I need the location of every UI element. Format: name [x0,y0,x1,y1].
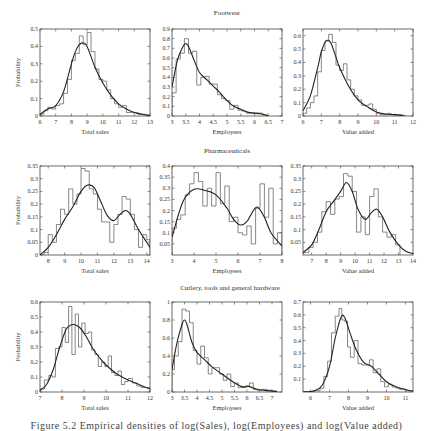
y-tick-label: 0.1 [31,227,39,233]
x-tick-label: 10 [103,395,109,401]
y-tick-label: 0.2 [31,359,39,365]
x-tick-label: 7 [271,395,274,401]
y-axis-label: Probability [14,332,21,362]
density-curve [172,44,268,116]
histogram-series [303,174,400,255]
y-tick-label: 0.4 [31,43,39,49]
x-tick-label: 9 [366,395,369,401]
y-tick-label: 0.35 [28,163,39,169]
x-tick-label: 7 [39,395,42,401]
y-tick-label: 0.3 [163,185,171,191]
y-tick-label: 0.25 [160,196,171,202]
y-tick-label: 0.5 [31,26,39,32]
y-tick-label: 0.3 [294,176,302,182]
x-tick-label: 13 [127,258,133,264]
x-tick-label: 8 [61,395,64,401]
y-tick-label: 0.35 [160,174,171,180]
x-tick-label: 6 [39,119,42,125]
density-curve [40,185,150,255]
x-tick-label: 8 [347,395,350,401]
y-tick-label: 0.2 [294,201,302,207]
x-tick-label: 12 [131,119,137,125]
x-tick-label: 11 [116,119,122,125]
x-tick-label: 5 [215,258,218,264]
figure-caption: Figure 5.2 Empirical densities of log(Sa… [0,420,433,431]
x-tick-label: 9 [339,258,342,264]
x-tick-label: 11 [95,258,101,264]
y-tick-label: 0.1 [294,100,302,106]
y-tick-label: 0.5 [294,325,302,331]
y-tick-label: 0.6 [294,33,302,39]
plot-frame [172,166,282,255]
x-tick-label: 6 [237,258,240,264]
x-tick-label: 12 [381,258,387,264]
plot-frame [40,302,150,392]
x-tick-label: 3.5 [182,119,190,125]
x-tick-label: 6 [246,395,249,401]
x-tick-label: 10 [383,395,389,401]
histogram-series [172,173,282,255]
x-tick-label: 7 [259,258,262,264]
x-tick-label: 10 [373,119,379,125]
y-tick-label: 0 [35,113,38,119]
y-tick-label: 0.3 [294,350,302,356]
y-tick-label: 0.4 [163,74,171,80]
y-tick-label: 1 [167,299,170,305]
density-curve [303,315,413,392]
y-tick-label: 0 [298,113,301,119]
chart-panel-3-2: 33.544.555.566.5700.20.40.60.81Employees [163,299,283,411]
x-tick-label: 11 [367,258,373,264]
chart-panel-2-1: 89101112131400.050.10.150.20.250.30.35To… [14,163,150,274]
x-tick-label: 5.5 [237,119,245,125]
x-tick-label: 11 [403,395,409,401]
x-tick-label: 6 [309,395,312,401]
y-tick-label: 0.4 [163,163,171,169]
x-tick-label: 12 [410,119,416,125]
chart-panel-2-2: 3456780.050.10.150.20.250.30.350.4Employ… [160,163,284,274]
x-tick-label: 6 [253,119,256,125]
y-tick-label: 0.2 [163,94,171,100]
x-axis-label: Total sales [81,267,109,274]
y-tick-label: 0.2 [31,201,39,207]
y-tick-label: 0.7 [163,45,171,51]
x-tick-label: 4 [193,258,196,264]
y-tick-label: 0.6 [163,335,171,341]
x-axis-label: Employees [213,128,242,135]
x-tick-label: 5.5 [231,395,239,401]
x-tick-label: 5 [221,395,224,401]
y-tick-label: 0.05 [160,241,171,247]
density-curve [40,324,150,390]
x-tick-label: 4 [198,119,201,125]
chart-panel-1-1: 67891011121300.10.20.30.40.5Total salesP… [14,26,153,135]
x-tick-label: 12 [147,395,153,401]
y-tick-label: 0.25 [28,188,39,194]
x-tick-label: 7 [310,258,313,264]
y-tick-label: 0.05 [28,239,39,245]
x-tick-label: 3 [171,119,174,125]
histogram-series [303,34,406,116]
y-tick-label: 0.15 [291,214,302,220]
y-tick-label: 0.3 [163,84,171,90]
y-tick-label: 0.4 [163,353,171,359]
histogram-series [40,169,150,255]
y-tick-label: 0.6 [163,55,171,61]
x-tick-label: 7 [54,119,57,125]
x-tick-label: 4.5 [210,119,218,125]
x-tick-label: 10 [352,258,358,264]
y-tick-label: 0 [35,389,38,395]
chart-panel-1-3: 678910111200.10.20.30.40.50.6Value added [294,29,417,135]
y-tick-label: 0.2 [163,371,171,377]
y-tick-label: 0.4 [294,338,302,344]
chart-panel-1-2: 33.544.555.566.5700.10.20.30.40.50.60.70… [163,26,284,135]
x-tick-label: 9 [63,258,66,264]
x-tick-label: 8 [47,258,50,264]
y-tick-label: 0.5 [294,46,302,52]
density-curve [172,320,277,392]
y-tick-label: 0 [167,113,170,119]
x-tick-label: 11 [125,395,131,401]
x-tick-label: 14 [410,258,416,264]
x-tick-label: 13 [396,258,402,264]
x-tick-label: 4.5 [206,395,214,401]
x-axis-label: Value added [342,267,375,274]
y-tick-label: 0.15 [28,214,39,220]
